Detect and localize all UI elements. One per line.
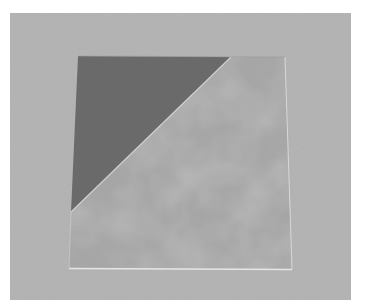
photograph [0, 0, 366, 306]
